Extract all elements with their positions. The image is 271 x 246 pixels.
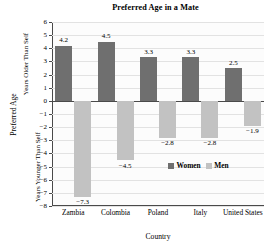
y-tick-mark bbox=[49, 193, 52, 194]
y-tick-label: 0 bbox=[44, 97, 48, 104]
bar-women-zambia bbox=[55, 46, 72, 101]
y-tick-label: 5 bbox=[44, 32, 48, 39]
legend-swatch-men-icon bbox=[206, 163, 212, 169]
chart-legend: Women Men bbox=[168, 161, 229, 170]
y-tick-label: −4 bbox=[40, 150, 47, 157]
bar-value-label-women: 2.5 bbox=[219, 59, 248, 67]
bar-value-label-men: −2.8 bbox=[153, 139, 182, 147]
legend-label-men: Men bbox=[214, 161, 228, 170]
bar-men-italy bbox=[201, 101, 218, 138]
y-axis-title-upper: Years Older Than Self bbox=[22, 24, 30, 104]
x-tick-label: Poland bbox=[137, 209, 179, 218]
y-tick-label: −5 bbox=[40, 163, 47, 170]
y-tick-label: 6 bbox=[44, 19, 48, 26]
bar-women-united-states bbox=[225, 68, 242, 101]
y-tick-mark bbox=[49, 140, 52, 141]
y-tick-mark bbox=[49, 61, 52, 62]
bar-men-poland bbox=[159, 101, 176, 138]
bar-value-label-men: −7.3 bbox=[68, 198, 97, 206]
legend-item-women: Women bbox=[168, 161, 201, 170]
gridline bbox=[52, 22, 264, 23]
y-axis-title: Preferred Age bbox=[9, 75, 18, 155]
bar-value-label-women: 4.5 bbox=[92, 32, 121, 40]
y-tick-label: −8 bbox=[40, 203, 47, 210]
y-tick-label: −2 bbox=[40, 124, 47, 131]
y-tick-mark bbox=[49, 167, 52, 168]
bar-men-united-states bbox=[244, 101, 261, 126]
bar-value-label-men: −4.5 bbox=[111, 162, 140, 170]
y-tick-label: −7 bbox=[40, 189, 47, 196]
bar-value-label-men: −1.9 bbox=[238, 127, 267, 135]
y-tick-mark bbox=[49, 88, 52, 89]
bar-women-colombia bbox=[98, 42, 115, 101]
x-tick-label: Colombia bbox=[94, 209, 136, 218]
y-tick-label: 1 bbox=[44, 84, 48, 91]
y-tick-label: −6 bbox=[40, 176, 47, 183]
bar-women-italy bbox=[182, 57, 199, 100]
x-tick-label: Zambia bbox=[52, 209, 94, 218]
y-tick-mark bbox=[49, 206, 52, 207]
y-tick-mark bbox=[49, 153, 52, 154]
bar-value-label-women: 3.3 bbox=[176, 48, 205, 56]
bar-chart: Preferred Age in a Mate Preferred Age Ye… bbox=[0, 0, 271, 246]
x-tick-label: Italy bbox=[179, 209, 221, 218]
bar-value-label-men: −2.8 bbox=[195, 139, 224, 147]
y-tick-label: −1 bbox=[40, 111, 47, 118]
y-tick-mark bbox=[49, 48, 52, 49]
legend-swatch-women-icon bbox=[168, 163, 174, 169]
y-tick-label: 4 bbox=[44, 45, 48, 52]
x-tick-label: United States bbox=[222, 209, 264, 218]
gridline bbox=[52, 35, 264, 36]
legend-item-men: Men bbox=[206, 161, 229, 170]
y-tick-mark bbox=[49, 75, 52, 76]
y-tick-label: 3 bbox=[44, 58, 48, 65]
y-tick-mark bbox=[49, 180, 52, 181]
bar-men-zambia bbox=[74, 101, 91, 197]
legend-label-women: Women bbox=[177, 161, 201, 170]
y-tick-label: −3 bbox=[40, 137, 47, 144]
bar-value-label-women: 3.3 bbox=[134, 48, 163, 56]
x-axis-title: Country bbox=[52, 232, 264, 241]
y-tick-mark bbox=[49, 22, 52, 23]
chart-title: Preferred Age in a Mate bbox=[40, 3, 271, 12]
bar-women-poland bbox=[140, 57, 157, 100]
plot-area: 6543210−1−2−3−4−5−6−7−84.2−7.34.5−4.53.3… bbox=[52, 22, 264, 206]
y-tick-mark bbox=[49, 127, 52, 128]
y-tick-label: 2 bbox=[44, 71, 48, 78]
bar-men-colombia bbox=[117, 101, 134, 160]
y-tick-mark bbox=[49, 114, 52, 115]
bar-value-label-women: 4.2 bbox=[49, 36, 78, 44]
